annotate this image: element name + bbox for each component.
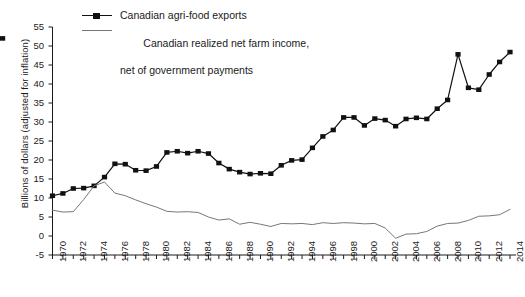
y-tick-label: 15 (18, 173, 44, 184)
x-tick-label: 1986 (223, 241, 234, 262)
y-tick-label: -5 (18, 249, 44, 260)
x-tick-label: 1990 (264, 241, 275, 262)
legend-label-farm-income: Canadian realized net farm income, net o… (120, 24, 309, 105)
x-tick-label: 1982 (181, 241, 192, 262)
x-tick-label: 1994 (306, 241, 317, 262)
x-tick-label: 2014 (514, 241, 525, 262)
x-tick-label: 1972 (77, 241, 88, 262)
y-tick-label: 55 (18, 21, 44, 32)
legend-item-exports: Canadian agri-food exports (80, 9, 309, 23)
x-tick-label: 2002 (389, 241, 400, 262)
x-tick-label: 1988 (244, 241, 255, 262)
x-tick-label: 1992 (285, 241, 296, 262)
x-tick-label: 1976 (119, 241, 130, 262)
y-tick-label: 25 (18, 135, 44, 146)
x-tick-label: 2006 (431, 241, 442, 262)
series-net-farm-income (53, 182, 511, 238)
y-tick-label: 5 (18, 211, 44, 222)
legend-label-exports: Canadian agri-food exports (120, 9, 247, 23)
y-tick-label: 35 (18, 97, 44, 108)
x-tick-label: 1984 (202, 241, 213, 262)
y-tick-label: 40 (18, 78, 44, 89)
x-tick-label: 2010 (472, 241, 483, 262)
x-tick-label: 1980 (160, 241, 171, 262)
legend-label-farm-income-line2: net of government payments (120, 64, 309, 78)
y-tick-label: 50 (18, 40, 44, 51)
chart-legend: Canadian agri-food exports Canadian real… (80, 9, 309, 106)
legend-marker-line-square-icon (80, 9, 114, 23)
x-tick-label: 2004 (410, 241, 421, 262)
x-tick-label: 2008 (452, 241, 463, 262)
legend-label-farm-income-line1: Canadian realized net farm income, (143, 37, 309, 49)
y-tick-label: 0 (18, 230, 44, 241)
y-tick-label: 30 (18, 116, 44, 127)
x-tick-label: 1974 (98, 241, 109, 262)
legend-item-farm-income: Canadian realized net farm income, net o… (80, 24, 309, 105)
y-tick-label: 20 (18, 154, 44, 165)
x-tick-label: 2012 (493, 241, 504, 262)
x-tick-label: 1996 (327, 241, 338, 262)
x-tick-label: 1998 (348, 241, 359, 262)
figure-caption (62, 288, 492, 297)
y-tick-label: 10 (18, 192, 44, 203)
y-tick-label: 45 (18, 59, 44, 70)
x-tick-label: 1978 (140, 241, 151, 262)
legend-marker-line-icon (80, 24, 114, 38)
x-tick-label: 2000 (368, 241, 379, 262)
x-tick-label: 1970 (57, 241, 68, 262)
